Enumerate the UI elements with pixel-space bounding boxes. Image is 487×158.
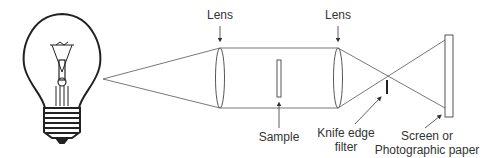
- lens-2: [334, 48, 343, 108]
- knife-label-line1: Knife edge: [317, 126, 375, 140]
- lens1-label: Lens: [207, 8, 233, 22]
- screen: [445, 35, 453, 117]
- sample: [277, 60, 281, 97]
- lens-1: [216, 48, 225, 108]
- screen-label-line2: Photographic paper: [375, 143, 480, 157]
- screen-arrow: [425, 116, 440, 128]
- knife-label-line2: filter: [335, 140, 358, 154]
- sample-label: Sample: [259, 130, 300, 144]
- lens2-label: Lens: [325, 8, 351, 22]
- schlieren-diagram: Lens Lens Sample Knife edge filter Scree…: [0, 0, 487, 158]
- screen-label-line1: Screen or: [401, 129, 453, 143]
- light-rays: [103, 40, 445, 108]
- light-bulb-icon: [24, 14, 101, 143]
- knife-arrow: [355, 98, 380, 124]
